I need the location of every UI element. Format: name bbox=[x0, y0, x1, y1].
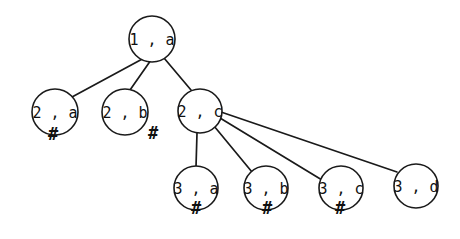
node-label: 2 , b bbox=[102, 104, 147, 122]
tree-edge bbox=[196, 133, 197, 167]
node-label: 2 , a bbox=[32, 104, 77, 122]
tree-diagram-svg: 1 , a2 , a2 , b2 , c3 , a3 , b3 , c3 , d… bbox=[0, 0, 460, 239]
tree-edge bbox=[214, 126, 252, 172]
tree-edge bbox=[164, 58, 191, 90]
node-label: 2 , c bbox=[177, 103, 222, 121]
tree-node[interactable]: 2 , b bbox=[102, 89, 148, 135]
node-label: 3 , c bbox=[318, 180, 363, 198]
tree-node[interactable]: 1 , a bbox=[129, 16, 175, 62]
tree-node[interactable]: 3 , d bbox=[393, 164, 438, 208]
nodes-layer: 1 , a2 , a2 , b2 , c3 , a3 , b3 , c3 , d bbox=[32, 16, 439, 210]
terminal-marker-hash: # bbox=[148, 123, 159, 143]
tree-edge bbox=[221, 112, 397, 172]
terminal-marker-hash: # bbox=[191, 198, 202, 218]
node-label: 3 , b bbox=[243, 180, 288, 198]
node-label: 3 , d bbox=[393, 178, 438, 196]
node-label: 1 , a bbox=[129, 31, 174, 49]
terminal-marker-hash: # bbox=[262, 198, 273, 218]
tree-node[interactable]: 2 , c bbox=[177, 89, 222, 133]
tree-diagram-canvas: 1 , a2 , a2 , b2 , c3 , a3 , b3 , c3 , d… bbox=[0, 0, 460, 239]
terminal-marker-hash: # bbox=[48, 124, 59, 144]
node-label: 3 , a bbox=[173, 180, 218, 198]
terminal-marker-hash: # bbox=[335, 198, 346, 218]
